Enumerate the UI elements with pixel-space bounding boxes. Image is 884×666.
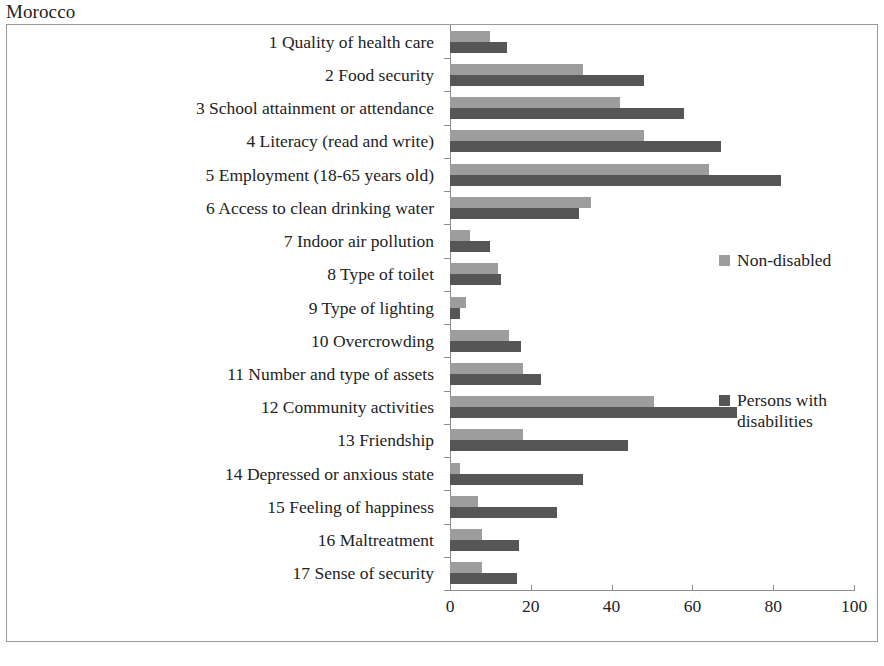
category-label: 15 Feeling of happiness bbox=[267, 497, 434, 517]
value-tick-label: 60 bbox=[684, 596, 702, 616]
category-label: 12 Community activities bbox=[261, 397, 434, 417]
category-tick bbox=[444, 125, 450, 126]
category-tick bbox=[444, 58, 450, 59]
bar-non-disabled bbox=[450, 197, 591, 208]
bar-non-disabled bbox=[450, 31, 490, 42]
bar-non-disabled bbox=[450, 330, 509, 341]
bar-persons-with-disabilities bbox=[450, 540, 519, 551]
bar-persons-with-disabilities bbox=[450, 407, 737, 418]
bar-persons-with-disabilities bbox=[450, 440, 628, 451]
category-label: 11 Number and type of assets bbox=[227, 364, 434, 384]
legend-label: Persons with disabilities bbox=[737, 390, 857, 432]
bar-non-disabled bbox=[450, 130, 644, 141]
category-label: 13 Friendship bbox=[337, 430, 434, 450]
bar-persons-with-disabilities bbox=[450, 573, 517, 584]
bar-group bbox=[450, 64, 854, 86]
bar-persons-with-disabilities bbox=[450, 341, 521, 352]
category-tick bbox=[444, 158, 450, 159]
bar-persons-with-disabilities bbox=[450, 474, 583, 485]
bar-non-disabled bbox=[450, 463, 460, 474]
bar-persons-with-disabilities bbox=[450, 308, 460, 319]
bar-non-disabled bbox=[450, 97, 620, 108]
bar-group bbox=[450, 330, 854, 352]
bar-persons-with-disabilities bbox=[450, 374, 541, 385]
chart-title: Morocco bbox=[6, 0, 75, 24]
bar-group bbox=[450, 31, 854, 53]
chart-page: Morocco 1 Quality of health care2 Food s… bbox=[0, 0, 884, 666]
bar-group bbox=[450, 429, 854, 451]
category-tick bbox=[444, 457, 450, 458]
value-tick bbox=[773, 585, 774, 591]
category-label: 14 Depressed or anxious state bbox=[225, 464, 434, 484]
value-tick-label: 80 bbox=[764, 596, 782, 616]
category-label: 7 Indoor air pollution bbox=[284, 231, 434, 251]
value-axis-line bbox=[450, 590, 854, 591]
bar-group bbox=[450, 496, 854, 518]
bar-group bbox=[450, 97, 854, 119]
bar-non-disabled bbox=[450, 429, 523, 440]
legend-label: Non-disabled bbox=[737, 250, 831, 271]
category-label: 3 School attainment or attendance bbox=[196, 98, 434, 118]
category-tick bbox=[444, 258, 450, 259]
bar-non-disabled bbox=[450, 363, 523, 374]
category-label: 4 Literacy (read and write) bbox=[246, 131, 434, 151]
bar-group bbox=[450, 562, 854, 584]
bar-persons-with-disabilities bbox=[450, 108, 684, 119]
bar-group bbox=[450, 130, 854, 152]
bar-group bbox=[450, 463, 854, 485]
bar-persons-with-disabilities bbox=[450, 42, 507, 53]
value-tick bbox=[450, 585, 451, 591]
value-axis: 020406080100 bbox=[450, 590, 854, 642]
value-tick-label: 0 bbox=[446, 596, 455, 616]
bar-group bbox=[450, 297, 854, 319]
category-tick bbox=[444, 557, 450, 558]
value-tick bbox=[692, 585, 693, 591]
bar-non-disabled bbox=[450, 496, 478, 507]
category-label: 1 Quality of health care bbox=[269, 32, 434, 52]
category-label: 9 Type of lighting bbox=[309, 298, 434, 318]
category-tick bbox=[444, 191, 450, 192]
bar-non-disabled bbox=[450, 64, 583, 75]
bar-non-disabled bbox=[450, 529, 482, 540]
category-tick bbox=[444, 291, 450, 292]
bar-group bbox=[450, 363, 854, 385]
bar-group bbox=[450, 529, 854, 551]
value-tick-label: 100 bbox=[841, 596, 867, 616]
value-tick bbox=[531, 585, 532, 591]
bar-persons-with-disabilities bbox=[450, 208, 579, 219]
category-label: 16 Maltreatment bbox=[318, 530, 434, 550]
bar-group bbox=[450, 230, 854, 252]
value-tick-label: 20 bbox=[522, 596, 540, 616]
category-tick bbox=[444, 490, 450, 491]
bar-persons-with-disabilities bbox=[450, 274, 501, 285]
category-label: 5 Employment (18-65 years old) bbox=[206, 165, 434, 185]
bar-persons-with-disabilities bbox=[450, 241, 490, 252]
category-tick bbox=[444, 524, 450, 525]
category-label: 10 Overcrowding bbox=[311, 331, 434, 351]
category-label: 2 Food security bbox=[325, 65, 434, 85]
category-tick bbox=[444, 224, 450, 225]
value-tick bbox=[854, 585, 855, 591]
bar-persons-with-disabilities bbox=[450, 507, 557, 518]
bar-non-disabled bbox=[450, 263, 498, 274]
category-label: 6 Access to clean drinking water bbox=[206, 198, 434, 218]
bar-persons-with-disabilities bbox=[450, 175, 781, 186]
bar-non-disabled bbox=[450, 230, 470, 241]
bar-non-disabled bbox=[450, 562, 482, 573]
category-tick bbox=[444, 91, 450, 92]
legend-entry[interactable]: Persons with disabilities bbox=[719, 390, 857, 432]
plot-frame: 1 Quality of health care2 Food security3… bbox=[6, 24, 878, 642]
bars-plot-area bbox=[450, 25, 854, 590]
bar-persons-with-disabilities bbox=[450, 75, 644, 86]
category-tick bbox=[444, 391, 450, 392]
legend-swatch-icon bbox=[719, 255, 730, 266]
category-tick bbox=[444, 590, 450, 591]
category-label: 17 Sense of security bbox=[293, 563, 434, 583]
category-tick bbox=[444, 324, 450, 325]
bar-non-disabled bbox=[450, 297, 466, 308]
category-tick bbox=[444, 357, 450, 358]
category-label: 8 Type of toilet bbox=[327, 264, 434, 284]
legend-entry[interactable]: Non-disabled bbox=[719, 250, 831, 271]
bar-non-disabled bbox=[450, 164, 709, 175]
legend-swatch-icon bbox=[719, 395, 730, 406]
